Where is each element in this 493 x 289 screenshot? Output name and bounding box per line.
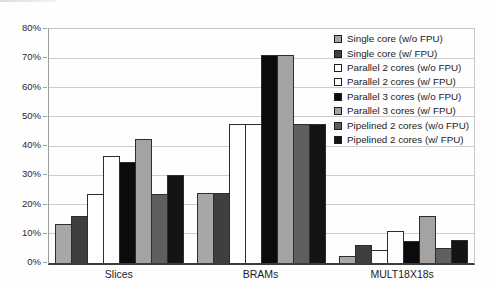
- bar: [151, 194, 168, 263]
- y-tick-label: 50%: [7, 111, 41, 121]
- bar: [245, 124, 262, 263]
- legend-swatch-icon: [334, 136, 342, 144]
- bar: [293, 124, 310, 263]
- bar: [87, 194, 104, 263]
- y-tick-mark: [43, 262, 47, 263]
- y-tick-mark: [43, 204, 47, 205]
- bar: [119, 162, 136, 263]
- legend-swatch-icon: [334, 78, 342, 86]
- y-tick-mark: [43, 28, 47, 29]
- legend-item: Parallel 3 cores (w/o FPU): [334, 90, 469, 104]
- legend-item: Single core (w/ FPU): [334, 46, 469, 60]
- y-tick-label: 80%: [7, 23, 41, 33]
- y-tick-label: 10%: [7, 228, 41, 238]
- legend-item: Parallel 2 cores (w/ FPU): [334, 75, 469, 89]
- legend-item: Pipelined 2 cores (w/o FPU): [334, 118, 469, 132]
- scan-artifact: [0, 0, 56, 2]
- bar: [71, 216, 88, 263]
- bar: [339, 256, 356, 263]
- bar-group-Slices: [49, 29, 191, 263]
- legend-label: Pipelined 2 cores (w/ FPU): [347, 135, 464, 145]
- bar: [103, 156, 120, 263]
- bar: [261, 55, 278, 263]
- y-tick-mark: [43, 116, 47, 117]
- legend-swatch-icon: [334, 64, 342, 72]
- y-tick-label: 20%: [7, 199, 41, 209]
- legend-item: Parallel 3 cores (w/ FPU): [334, 104, 469, 118]
- y-tick-label: 70%: [7, 52, 41, 62]
- legend-swatch-icon: [334, 122, 342, 130]
- x-category-label: BRAMs: [190, 268, 332, 280]
- legend-label: Single core (w/o FPU): [347, 34, 443, 44]
- bar: [167, 175, 184, 263]
- bar: [451, 240, 468, 263]
- legend-swatch-icon: [334, 107, 342, 115]
- bar: [419, 216, 436, 263]
- legend-label: Parallel 3 cores (w/ FPU): [347, 106, 456, 116]
- y-tick-mark: [43, 57, 47, 58]
- legend-item: Single core (w/o FPU): [334, 32, 469, 46]
- bar: [277, 55, 294, 263]
- y-tick-label: 40%: [7, 140, 41, 150]
- legend-swatch-icon: [334, 93, 342, 101]
- legend-item: Pipelined 2 cores (w/ FPU): [334, 133, 469, 147]
- y-tick-mark: [43, 174, 47, 175]
- legend-swatch-icon: [334, 35, 342, 43]
- bar: [55, 224, 72, 263]
- y-tick-label: 60%: [7, 82, 41, 92]
- bar: [309, 124, 326, 263]
- bar: [213, 193, 230, 263]
- legend-label: Parallel 2 cores (w/ FPU): [347, 77, 456, 87]
- legend-label: Pipelined 2 cores (w/o FPU): [347, 121, 469, 131]
- legend-label: Parallel 3 cores (w/o FPU): [347, 92, 461, 102]
- bar: [435, 248, 452, 263]
- x-category-label: MULT18X18s: [331, 268, 473, 280]
- y-tick-label: 0%: [7, 257, 41, 267]
- y-tick-mark: [43, 87, 47, 88]
- y-tick-mark: [43, 145, 47, 146]
- y-tick-label: 30%: [7, 169, 41, 179]
- bar-group-BRAMs: [191, 29, 333, 263]
- bar: [403, 241, 420, 263]
- x-category-label: Slices: [48, 268, 190, 280]
- bar: [355, 245, 372, 263]
- legend-item: Parallel 2 cores (w/o FPU): [334, 61, 469, 75]
- legend-label: Parallel 2 cores (w/o FPU): [347, 63, 461, 73]
- bar: [371, 250, 388, 263]
- bar: [197, 193, 214, 263]
- y-tick-mark: [43, 233, 47, 234]
- grouped-bar-chart: 0%10%20%30%40%50%60%70%80% SlicesBRAMsMU…: [0, 0, 493, 289]
- legend-swatch-icon: [334, 50, 342, 58]
- bar: [387, 231, 404, 263]
- bar: [135, 139, 152, 263]
- legend: Single core (w/o FPU)Single core (w/ FPU…: [334, 32, 469, 147]
- legend-label: Single core (w/ FPU): [347, 49, 437, 59]
- bar: [229, 124, 246, 263]
